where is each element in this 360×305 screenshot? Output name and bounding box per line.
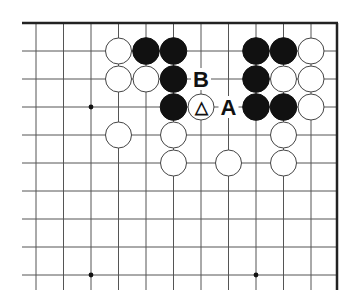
go-board: △BA	[0, 0, 360, 305]
white-stone	[298, 94, 324, 120]
star-point	[89, 273, 94, 278]
move-label-b: B	[193, 67, 209, 92]
black-stone	[133, 38, 160, 65]
triangle-mark-icon: △	[194, 98, 209, 117]
star-point	[254, 273, 259, 278]
black-stone	[243, 66, 270, 93]
star-point	[89, 105, 94, 110]
black-stone	[160, 38, 187, 65]
black-stone	[243, 94, 270, 121]
move-label-a: A	[221, 95, 237, 120]
black-stone	[270, 94, 297, 121]
black-stone	[160, 66, 187, 93]
white-stone	[133, 66, 159, 92]
white-stone	[106, 66, 132, 92]
black-stone	[160, 94, 187, 121]
white-stone	[271, 66, 297, 92]
white-stone	[106, 122, 132, 148]
white-stone	[161, 122, 187, 148]
black-stone	[243, 38, 270, 65]
white-stone	[216, 150, 242, 176]
black-stone	[270, 38, 297, 65]
white-stone	[271, 150, 297, 176]
white-stone	[298, 66, 324, 92]
white-stone	[106, 38, 132, 64]
white-stone	[161, 150, 187, 176]
white-stone	[271, 122, 297, 148]
white-stone	[298, 38, 324, 64]
